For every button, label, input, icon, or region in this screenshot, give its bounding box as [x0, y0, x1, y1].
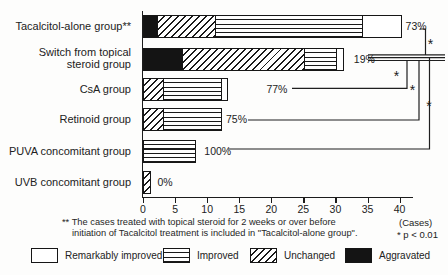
bar-segment-solid-black: [144, 16, 157, 37]
x-tick-label: 15: [233, 203, 245, 215]
bar-segment-diagonal-hatch: [144, 79, 163, 100]
x-tick-label: 25: [298, 203, 310, 215]
bar-segment-white: [362, 16, 400, 37]
x-tick-label: 20: [265, 203, 277, 215]
y-axis-line: [142, 11, 143, 198]
stacked-bar: [143, 15, 402, 38]
bar-segment-diagonal-hatch: [182, 49, 304, 70]
bar-segment-horizontal-lines: [304, 49, 336, 70]
legend-label: Aggravated: [379, 248, 430, 263]
percent-label: 0%: [157, 176, 172, 188]
category-label: Tacalcitol-alone group**: [4, 19, 131, 32]
category-label: PUVA concomitant group: [4, 144, 131, 157]
legend-label: Unchanged: [284, 248, 335, 263]
x-tick-label: 30: [330, 203, 342, 215]
legend-swatch-horizontal-lines: [163, 248, 190, 263]
percent-label: 77%: [266, 83, 287, 95]
category-label: CsA group: [4, 82, 131, 95]
legend-swatch-diagonal-hatch: [250, 248, 277, 263]
bar-segment-white: [336, 49, 342, 70]
stacked-bar: [143, 171, 151, 194]
significance-asterisk: *: [394, 69, 399, 83]
bar-segment-horizontal-lines: [144, 141, 195, 162]
legend-label: Improved: [197, 248, 239, 263]
x-axis-line: [142, 197, 413, 198]
axis-unit-label: (Cases): [399, 217, 432, 228]
stacked-bar: [143, 108, 222, 131]
category-label: Retinoid group: [4, 112, 131, 125]
bar-segment-horizontal-lines: [163, 79, 221, 100]
x-tick-label: 5: [172, 203, 178, 215]
significance-asterisk: *: [428, 37, 433, 51]
legend-label: Remarkably improved: [65, 248, 162, 263]
footnote-line-1: ** The cases treated with topical steroi…: [62, 217, 336, 227]
category-label: UVB concomitant group: [4, 175, 131, 188]
bar-segment-diagonal-hatch: [157, 16, 215, 37]
x-tick-label: 35: [362, 203, 374, 215]
figure: 0510152025303540 Tacalcitol-alone group*…: [0, 0, 448, 275]
category-label: Switch from topical steroid group: [4, 46, 131, 72]
stacked-bar: [143, 78, 228, 101]
significance-asterisk: *: [426, 99, 431, 113]
p-value-note: * p < 0.01: [397, 229, 438, 240]
bracket-tacalcitol-vs-switch: [420, 29, 426, 55]
stacked-bar: [143, 48, 344, 71]
x-tick-label: 40: [394, 203, 406, 215]
significance-asterisk: *: [410, 83, 415, 97]
x-tick-label: 0: [140, 203, 146, 215]
percent-label: 75%: [226, 113, 247, 125]
legend-swatch-solid-black: [345, 248, 372, 263]
stacked-bar: [143, 140, 196, 163]
bar-segment-diagonal-hatch: [144, 109, 163, 130]
x-tick-label: 10: [201, 203, 213, 215]
footnote-line-2: initiation of Tacalcitol treatment is in…: [72, 228, 358, 238]
percent-label: 73%: [406, 20, 427, 32]
legend-swatch-white: [31, 248, 58, 263]
bar-segment-white: [221, 79, 227, 100]
percent-label: 100%: [204, 145, 231, 157]
bar-segment-solid-black: [144, 49, 182, 70]
bar-segment-horizontal-lines: [163, 109, 221, 130]
percent-label: 19%: [354, 53, 375, 65]
bar-segment-horizontal-lines: [215, 16, 363, 37]
bar-segment-diagonal-hatch: [144, 172, 150, 193]
bracket-switch-vs-puva: [228, 58, 430, 149]
